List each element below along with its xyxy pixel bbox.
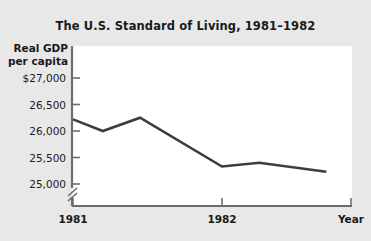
y-tick-label-25500: 25,500 bbox=[4, 152, 66, 164]
chart-figure: The U.S. Standard of Living, 1981–1982 R… bbox=[0, 0, 371, 241]
x-tick-label-1981: 1981 bbox=[52, 213, 94, 225]
y-tick-label-25000: 25,000 bbox=[4, 178, 66, 190]
y-axis-tick-labels: $27,000 26,500 26,000 25,500 25,000 bbox=[4, 0, 66, 241]
y-tick-label-26500: 26,500 bbox=[4, 99, 66, 111]
x-axis-label: Year bbox=[318, 213, 364, 225]
x-tick-label-1982: 1982 bbox=[201, 213, 243, 225]
plot-area bbox=[72, 46, 352, 206]
y-tick-label-27000: $27,000 bbox=[4, 72, 66, 84]
y-tick-label-26000: 26,000 bbox=[4, 125, 66, 137]
